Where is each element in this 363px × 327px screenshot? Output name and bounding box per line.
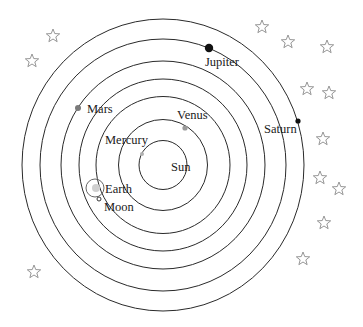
- star-icon: [313, 171, 326, 184]
- orbit-jupiter: [61, 61, 265, 269]
- solar-system-diagram: Sun MercuryVenusEarthMarsJupiterSaturnMo…: [0, 0, 363, 327]
- orbit-saturn: [40, 39, 286, 291]
- star-icon: [25, 54, 38, 67]
- star-icon: [322, 86, 335, 99]
- label-venus: Venus: [177, 108, 208, 122]
- star-icon: [46, 29, 59, 42]
- label-mars: Mars: [87, 102, 113, 116]
- star-icon: [281, 35, 294, 48]
- planet-mars: [75, 105, 81, 111]
- labels-group: Sun MercuryVenusEarthMarsJupiterSaturnMo…: [87, 55, 297, 214]
- planet-earth: [92, 184, 100, 192]
- planet-mercury: [140, 152, 144, 156]
- stars-group: [25, 20, 345, 278]
- star-icon: [332, 182, 345, 195]
- label-mercury: Mercury: [105, 133, 149, 147]
- planet-jupiter: [205, 44, 213, 52]
- sun-label: Sun: [171, 160, 191, 174]
- star-icon: [316, 132, 329, 145]
- label-saturn: Saturn: [264, 122, 297, 136]
- label-moon: Moon: [104, 200, 135, 214]
- moon: [97, 197, 101, 201]
- label-jupiter: Jupiter: [205, 55, 240, 69]
- planet-venus: [182, 125, 187, 130]
- star-icon: [296, 252, 309, 265]
- star-icon: [27, 265, 40, 278]
- star-icon: [300, 82, 313, 95]
- orbit-outer: [22, 19, 304, 311]
- star-icon: [255, 20, 268, 33]
- star-icon: [320, 40, 333, 53]
- star-icon: [317, 216, 330, 229]
- label-earth: Earth: [105, 182, 133, 196]
- orbits-group: [22, 19, 304, 311]
